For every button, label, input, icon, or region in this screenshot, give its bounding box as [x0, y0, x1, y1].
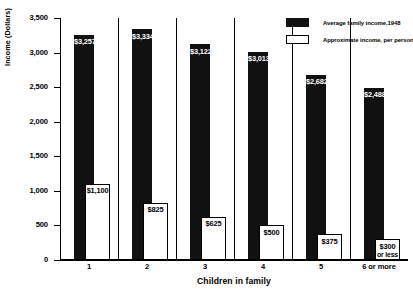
bar-group: $2,488$300or less — [350, 18, 408, 260]
bar-average-family-income: $2,488 — [364, 88, 384, 260]
bar-value-label-amount: $500 — [264, 228, 280, 237]
legend-item-label: Approximate income, per person — [323, 37, 413, 43]
legend-swatch-open — [286, 35, 309, 44]
bar-average-family-income: $2,682 — [306, 75, 326, 260]
bar-group: $3,257$1,100 — [60, 18, 118, 260]
bar-group: $3,334$825 — [118, 18, 176, 260]
legend: Average family income,1948Approximate in… — [286, 14, 412, 48]
plot-area: $3,257$1,100$3,334$825$3,122$625$3,013$5… — [60, 18, 408, 260]
bar-approximate-income-per-person: $625 — [201, 217, 226, 260]
bar-value-label-amount: $1,100 — [87, 186, 109, 195]
bar-value-label-amount: $825 — [148, 205, 164, 214]
bar-approximate-income-per-person: $375 — [317, 234, 342, 260]
bar-approximate-income-per-person: $500 — [259, 225, 284, 260]
y-axis-tick-label: 2,500 — [29, 82, 48, 92]
bar-value-label: $2,488 — [364, 90, 384, 99]
bar-value-label-amount: $300 — [380, 242, 396, 251]
x-axis-tick-label: 2 — [118, 262, 176, 271]
bar-value-label: $825 — [144, 206, 167, 214]
x-axis-tick-label: 4 — [234, 262, 292, 271]
legend-item: Approximate income, per person — [286, 31, 412, 48]
x-axis-baseline — [60, 259, 408, 261]
bar-approximate-income-per-person: $300or less — [375, 239, 400, 260]
bar-value-label: $3,257 — [74, 37, 94, 46]
y-axis-tick-labels: 05001,0001,5002,0002,5003,0003,500 — [14, 0, 60, 298]
y-axis-tick-label: 500 — [36, 220, 48, 230]
bar-value-label-amount: $625 — [206, 219, 222, 228]
legend-item-label: Average family income,1948 — [323, 20, 400, 26]
x-axis-tick-label: 3 — [176, 262, 234, 271]
y-axis-title: Income (Dollars) — [3, 0, 12, 92]
x-axis-title: Children in family — [60, 276, 408, 286]
bar-value-label: $625 — [202, 220, 225, 228]
bar-value-label: $500 — [260, 229, 283, 237]
bar-value-label-amount: $375 — [322, 237, 338, 246]
bar-approximate-income-per-person: $825 — [143, 203, 168, 260]
y-axis-tick-label: 3,500 — [29, 13, 48, 23]
y-axis-tick-label: 3,000 — [29, 48, 48, 58]
bar-value-label: $1,100 — [86, 187, 109, 195]
bar-group: $2,682$375 — [292, 18, 350, 260]
bar-group: $3,013$500 — [234, 18, 292, 260]
y-axis-tick-label: 1,500 — [29, 151, 48, 161]
bar-value-label: $3,334 — [132, 32, 152, 41]
x-axis-tick-label: 1 — [60, 262, 118, 271]
bar-value-label: $300or less — [376, 243, 399, 260]
bar-group: $3,122$625 — [176, 18, 234, 260]
bar-value-label: $3,013 — [248, 54, 268, 63]
x-axis-tick-label: 5 — [292, 262, 350, 271]
y-axis-tick-label: 0 — [44, 255, 48, 265]
x-axis-tick-label: 6 or more — [350, 262, 408, 271]
bar-value-label: $375 — [318, 238, 341, 246]
y-axis-tick-label: 1,000 — [29, 186, 48, 196]
bar-chart: Income (Dollars) 05001,0001,5002,0002,50… — [0, 0, 413, 298]
bar-value-label: $2,682 — [306, 77, 326, 86]
y-axis-tick-label: 2,000 — [29, 117, 48, 127]
bar-approximate-income-per-person: $1,100 — [85, 184, 110, 260]
x-axis-tick-labels: 123456 or more — [60, 262, 408, 276]
legend-item: Average family income,1948 — [286, 14, 412, 31]
legend-swatch-filled — [286, 18, 309, 27]
bar-value-label: $3,122 — [190, 47, 210, 56]
